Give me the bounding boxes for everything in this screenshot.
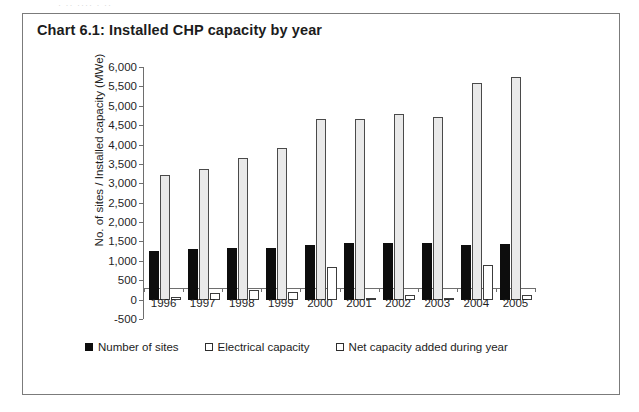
y-axis-title: No. of sites / Installed capacity (MWe) bbox=[93, 30, 105, 270]
bar-group bbox=[418, 67, 457, 319]
y-axis-tick-label: 2,500 bbox=[108, 197, 137, 209]
x-axis-tick-mark bbox=[496, 288, 497, 292]
bar-electrical-capacity-2003 bbox=[433, 117, 443, 299]
y-axis-tick-mark bbox=[139, 183, 143, 184]
bar-number-of-sites-2000 bbox=[305, 245, 315, 299]
bar-electrical-capacity-1998 bbox=[238, 158, 248, 300]
x-axis-tick-label: 2000 bbox=[307, 297, 333, 309]
bar-electrical-capacity-2000 bbox=[316, 119, 326, 299]
bar-number-of-sites-1998 bbox=[227, 248, 237, 299]
bar-number-of-sites-2001 bbox=[344, 243, 354, 299]
y-axis-tick-mark bbox=[139, 125, 143, 126]
y-axis-tick-mark bbox=[139, 106, 143, 107]
y-axis-tick-mark bbox=[139, 67, 143, 68]
x-axis-tick-label: 2005 bbox=[503, 297, 529, 309]
bar-number-of-sites-2004 bbox=[461, 245, 471, 300]
bar-electrical-capacity-2002 bbox=[394, 114, 404, 300]
bar-electrical-capacity-1999 bbox=[277, 148, 287, 299]
x-axis-tick-label: 2001 bbox=[346, 297, 372, 309]
y-axis-tick-label: 5,500 bbox=[108, 80, 137, 92]
chart-legend: Number of sitesElectrical capacityNet ca… bbox=[85, 341, 508, 353]
bar-group bbox=[300, 67, 339, 319]
y-axis-tick-label: 4,500 bbox=[108, 119, 137, 131]
y-axis-tick-mark bbox=[139, 145, 143, 146]
y-axis-tick-label: 0 bbox=[131, 294, 137, 306]
bar-number-of-sites-2005 bbox=[500, 244, 510, 300]
x-axis-tick-mark bbox=[418, 288, 419, 292]
y-axis-tick-mark bbox=[139, 241, 143, 242]
bar-group bbox=[144, 67, 183, 319]
legend-label: Net capacity added during year bbox=[349, 341, 508, 353]
chart-panel: Chart 6.1: Installed CHP capacity by yea… bbox=[22, 13, 620, 395]
y-axis-tick-label: 3,000 bbox=[108, 177, 137, 189]
bar-electrical-capacity-2001 bbox=[355, 119, 365, 299]
y-axis-tick-label: 1,500 bbox=[108, 235, 137, 247]
x-axis-tick-mark bbox=[379, 288, 380, 292]
x-axis-tick-mark bbox=[300, 288, 301, 292]
y-axis-tick-label: 5,000 bbox=[108, 100, 137, 112]
legend-label: Electrical capacity bbox=[218, 341, 310, 353]
scan-artifact-text: · ·· ···· · ·· bbox=[58, 0, 228, 8]
x-axis-tick-label: 1996 bbox=[151, 297, 177, 309]
y-axis-tick-mark bbox=[139, 164, 143, 165]
bar-number-of-sites-2002 bbox=[383, 243, 393, 299]
x-axis-tick-label: 1999 bbox=[268, 297, 294, 309]
x-axis-tick-label: 2004 bbox=[464, 297, 490, 309]
y-axis-tick-label: -500 bbox=[114, 313, 137, 325]
y-axis-tick-mark bbox=[139, 222, 143, 223]
y-axis-tick-label: 6,000 bbox=[108, 61, 137, 73]
bar-number-of-sites-1996 bbox=[149, 251, 159, 299]
y-axis-tick-label: 3,500 bbox=[108, 158, 137, 170]
bar-electrical-capacity-2005 bbox=[511, 77, 521, 300]
bar-group bbox=[457, 67, 496, 319]
x-axis-tick-mark bbox=[222, 288, 223, 292]
legend-label: Number of sites bbox=[98, 341, 179, 353]
legend-swatch-icon bbox=[205, 343, 213, 351]
x-axis-tick-label: 1997 bbox=[190, 297, 216, 309]
legend-item-electrical-capacity[interactable]: Electrical capacity bbox=[205, 341, 310, 353]
x-axis-tick-mark bbox=[144, 288, 145, 292]
bar-number-of-sites-1997 bbox=[188, 249, 198, 299]
y-axis-tick-label: 4,000 bbox=[108, 139, 137, 151]
y-axis-tick-mark bbox=[139, 300, 143, 301]
bar-number-of-sites-2003 bbox=[422, 243, 432, 299]
bar-series-container bbox=[144, 67, 535, 319]
bar-group bbox=[496, 67, 535, 319]
bar-group bbox=[261, 67, 300, 319]
x-axis-tick-label: 2002 bbox=[385, 297, 411, 309]
x-axis-tick-label: 1998 bbox=[229, 297, 255, 309]
y-axis-tick-label: 500 bbox=[118, 274, 137, 286]
y-axis-tick-mark bbox=[139, 319, 143, 320]
bar-net-capacity-added-during-year-2004 bbox=[483, 265, 493, 300]
bar-electrical-capacity-1997 bbox=[199, 169, 209, 300]
y-axis-tick-mark bbox=[139, 203, 143, 204]
bar-group bbox=[183, 67, 222, 319]
legend-item-number-of-sites[interactable]: Number of sites bbox=[85, 341, 179, 353]
bar-group bbox=[379, 67, 418, 319]
x-axis-tick-mark bbox=[183, 288, 184, 292]
bar-net-capacity-added-during-year-2000 bbox=[327, 267, 337, 300]
bar-number-of-sites-1999 bbox=[266, 248, 276, 300]
bar-group bbox=[222, 67, 261, 319]
bar-electrical-capacity-1996 bbox=[160, 175, 170, 300]
x-axis-tick-mark bbox=[535, 288, 536, 292]
y-axis-tick-mark bbox=[139, 280, 143, 281]
legend-item-net-capacity-added-during-year[interactable]: Net capacity added during year bbox=[336, 341, 508, 353]
x-axis-tick-mark bbox=[340, 288, 341, 292]
x-axis-tick-mark bbox=[261, 288, 262, 292]
bar-group bbox=[340, 67, 379, 319]
y-axis-tick-mark bbox=[139, 86, 143, 87]
y-axis-tick-label: 2,000 bbox=[108, 216, 137, 228]
legend-swatch-icon bbox=[85, 343, 93, 351]
legend-swatch-icon bbox=[336, 343, 344, 351]
bar-electrical-capacity-2004 bbox=[472, 83, 482, 300]
y-axis-tick-mark bbox=[139, 261, 143, 262]
y-axis-tick-label: 1,000 bbox=[108, 255, 137, 267]
x-axis-tick-label: 2003 bbox=[424, 297, 450, 309]
plot-wrapper: No. of sites / Installed capacity (MWe) … bbox=[23, 14, 621, 396]
x-axis-tick-mark bbox=[457, 288, 458, 292]
